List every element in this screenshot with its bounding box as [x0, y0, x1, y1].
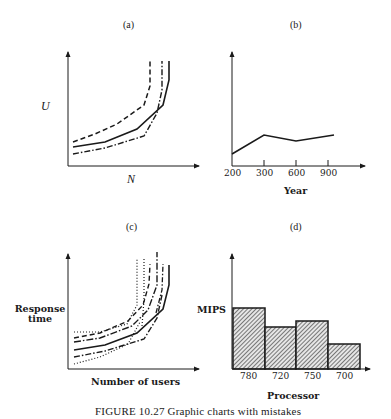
- panel-d-y-label: MIPS: [197, 304, 226, 315]
- panel-d-bar-750: [296, 321, 328, 369]
- panel-c-title: (c): [126, 221, 137, 232]
- panel-a-x-label: N: [127, 172, 135, 187]
- panel-c-chart: [68, 252, 199, 369]
- panel-d-tick-label: 750: [304, 371, 321, 381]
- panel-d-tick-label: 700: [336, 371, 353, 381]
- panel-b-tick-label: 200: [224, 168, 241, 178]
- panel-b-chart: [232, 52, 365, 166]
- panel-a-title: (a): [123, 19, 134, 30]
- panel-d-title: (d): [290, 221, 302, 232]
- panel-d-bar-720: [265, 327, 296, 369]
- panel-c-dashdot-right-curve: [156, 264, 163, 313]
- panel-d-tick-label: 720: [272, 371, 289, 381]
- figure: (a) U N (b) 200 300 600 900 Year (c) Res…: [0, 0, 391, 419]
- panel-a-y-label: U: [41, 99, 50, 114]
- panel-a-chart: [68, 52, 199, 166]
- panel-a-dashed-curve: [73, 61, 150, 142]
- panel-c-solid-curve: [74, 265, 169, 350]
- panel-d-tick-label: 780: [240, 371, 257, 381]
- panel-c-dashed-curve: [74, 264, 150, 338]
- panel-b-tick-label: 900: [320, 168, 337, 178]
- panel-a-solid-curve: [73, 61, 169, 147]
- panel-a-dashdot-curve: [73, 61, 162, 154]
- panel-c-x-label: Number of users: [91, 376, 180, 387]
- figure-canvas: [0, 0, 391, 419]
- panel-b-x-label: Year: [284, 185, 307, 196]
- panel-d-x-label: Processor: [267, 390, 319, 401]
- panel-b-line: [232, 135, 334, 154]
- panel-c-y-label: Response time: [13, 304, 67, 324]
- panel-b-title: (b): [290, 19, 302, 30]
- figure-caption: FIGURE 10.27 Graphic charts with mistake…: [95, 405, 301, 417]
- panel-c-y-label-line2: time: [13, 314, 67, 324]
- panel-d-bar-700: [328, 344, 360, 369]
- panel-d-chart: [232, 254, 370, 369]
- panel-d-bar-780: [233, 308, 265, 369]
- panel-b-tick-label: 300: [256, 168, 273, 178]
- panel-b-tick-label: 600: [288, 168, 305, 178]
